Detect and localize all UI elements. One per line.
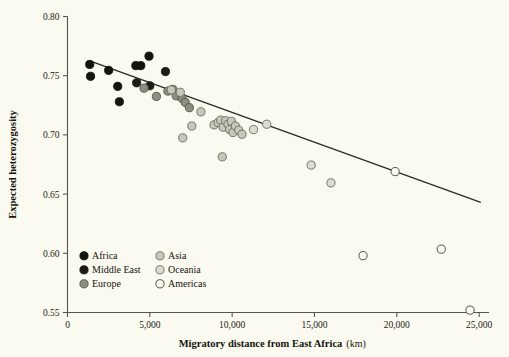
y-tick-label: 0.75 [43,71,60,81]
data-point [263,120,271,128]
data-point [188,122,196,130]
y-tick-label: 0.55 [43,308,60,318]
data-point [161,67,169,75]
data-point [140,84,148,92]
legend-entry-africa: Africa [80,250,118,261]
scatter-plot-figure: 0.550.600.650.700.750.8005,00010,00015,0… [0,0,509,357]
x-tick-label: 5,000 [139,320,161,330]
y-tick-label: 0.80 [43,12,60,22]
data-point [185,104,193,112]
data-point [218,153,226,161]
legend-marker [80,280,88,288]
data-point [133,79,141,87]
x-axis-unit-text: (km) [346,338,365,350]
x-tick-label: 25,000 [466,320,492,330]
x-tick-label: 0 [65,320,70,330]
figure-background [0,0,509,357]
x-tick-label: 10,000 [219,320,245,330]
legend-marker [80,266,88,274]
data-point [307,161,315,169]
x-axis-title: Migratory distance from East Africa(km) [179,338,366,350]
data-point [145,52,153,60]
data-point [359,252,367,260]
legend-label: Americas [168,278,206,289]
legend-marker [156,252,164,260]
legend-label: Europe [92,278,121,289]
x-tick-label: 20,000 [384,320,410,330]
x-axis-title-text: Migratory distance from East Africa [179,338,343,349]
legend-entry-asia: Asia [156,250,187,261]
data-point [437,245,445,253]
data-point [197,108,205,116]
data-point [327,179,335,187]
data-point [466,306,474,314]
data-point [152,92,160,100]
data-point [176,88,184,96]
data-point [179,134,187,142]
data-point [86,60,94,68]
legend-marker [156,266,164,274]
data-point [137,62,145,70]
data-point [115,98,123,106]
data-point [167,86,175,94]
legend-label: Middle East [92,264,141,275]
legend-label: Africa [92,250,118,261]
legend-marker [80,252,88,260]
legend-label: Asia [168,250,187,261]
data-point [249,125,257,133]
y-tick-label: 0.60 [43,249,60,259]
data-point [391,168,399,176]
data-point [86,72,94,80]
y-tick-label: 0.70 [43,130,60,140]
data-point [114,82,122,90]
y-tick-label: 0.65 [43,190,60,200]
legend-marker [156,280,164,288]
plot-canvas: 0.550.600.650.700.750.8005,00010,00015,0… [0,0,509,357]
data-point [105,66,113,74]
x-tick-label: 15,000 [301,320,327,330]
data-point [238,130,246,138]
legend-label: Oceania [168,264,201,275]
y-axis-title: Expected heterozygosity [7,109,18,218]
